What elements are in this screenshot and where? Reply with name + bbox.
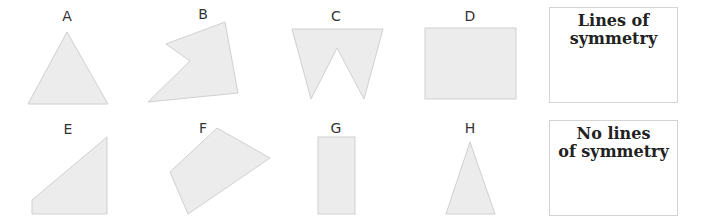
- shape-label-h: H: [465, 120, 476, 136]
- shape-g[interactable]: [318, 137, 355, 214]
- shape-label-c: C: [331, 8, 341, 24]
- shape-b[interactable]: [148, 22, 238, 102]
- shape-a[interactable]: [28, 32, 108, 104]
- shape-label-g: G: [331, 120, 342, 136]
- lines-of-symmetry-box[interactable]: Lines of symmetry: [549, 7, 678, 103]
- box-title: Lines of symmetry: [550, 12, 677, 48]
- shape-label-e: E: [64, 121, 73, 137]
- box-title: No lines of symmetry: [550, 125, 677, 161]
- shape-h[interactable]: [446, 142, 495, 214]
- shape-d[interactable]: [425, 28, 516, 99]
- shape-label-d: D: [465, 8, 476, 24]
- shape-label-a: A: [62, 8, 72, 24]
- shape-e[interactable]: [32, 137, 107, 214]
- shape-label-f: F: [199, 120, 207, 136]
- shape-label-b: B: [198, 6, 208, 22]
- shape-f[interactable]: [170, 128, 270, 214]
- no-lines-of-symmetry-box[interactable]: No lines of symmetry: [549, 120, 678, 216]
- shape-c[interactable]: [292, 29, 383, 99]
